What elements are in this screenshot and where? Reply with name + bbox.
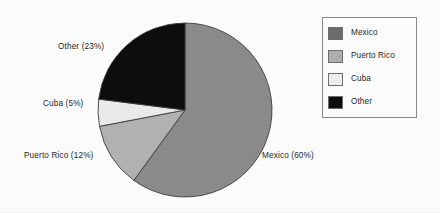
legend-item-list: MexicoPuerto RicoCubaOther xyxy=(328,22,413,114)
slice-callout-mexico: Mexico (60%) xyxy=(262,152,314,160)
legend-swatch-icon xyxy=(328,50,343,63)
legend-item-label: Puerto Rico xyxy=(351,52,395,60)
chart-legend: MexicoPuerto RicoCubaOther xyxy=(322,17,417,118)
slice-callout-cuba: Cuba (5%) xyxy=(43,100,84,108)
legend-swatch-icon xyxy=(328,96,343,109)
legend-item-cuba: Cuba xyxy=(328,69,413,91)
legend-swatch-icon xyxy=(328,73,343,86)
slice-callout-puerto-rico: Puerto Rico (12%) xyxy=(24,152,93,160)
slice-callout-other: Other (23%) xyxy=(58,43,104,51)
pie-slice-group xyxy=(98,23,272,197)
legend-item-puerto-rico: Puerto Rico xyxy=(328,46,413,68)
legend-item-label: Cuba xyxy=(351,75,371,83)
legend-swatch-icon xyxy=(328,27,343,40)
pie-chart xyxy=(97,22,273,198)
legend-item-label: Mexico xyxy=(351,29,378,37)
legend-item-label: Other xyxy=(351,98,372,106)
legend-item-other: Other xyxy=(328,92,413,114)
legend-item-mexico: Mexico xyxy=(328,23,413,45)
pie-chart-svg xyxy=(97,22,273,198)
pie-slice-other xyxy=(99,23,185,110)
chart-canvas: Other (23%) Cuba (5%) Puerto Rico (12%) … xyxy=(0,0,440,213)
